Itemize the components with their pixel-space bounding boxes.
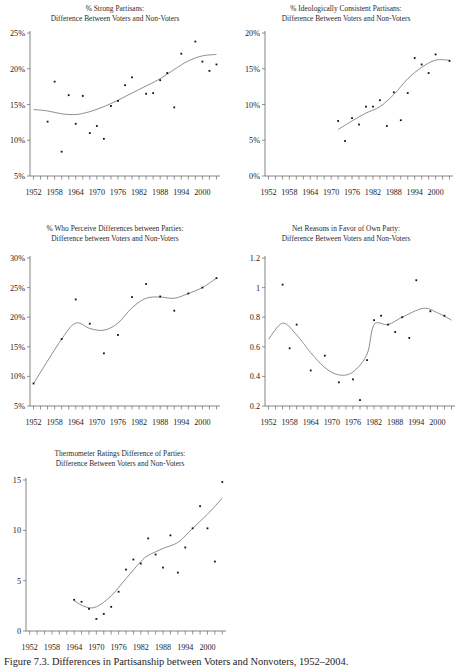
data-point (159, 79, 161, 81)
data-point (81, 601, 83, 603)
x-axis-tick-label: 1994 (408, 418, 424, 427)
panel-title: Net Reasons in Favor of Own Party: Diffe… (231, 224, 461, 243)
data-point (194, 41, 196, 43)
x-axis-tick-label: 1988 (155, 643, 171, 652)
panel-title-line2: Difference between Voters and Non-Voters (0, 234, 230, 244)
figure-container: % Strong Partisans: Difference Between V… (0, 0, 461, 667)
chart-svg: 5%10%15%20%25%19521958196419701976198219… (0, 23, 230, 208)
data-point (118, 591, 120, 593)
x-axis-tick-label: 1952 (25, 418, 41, 427)
y-axis-tick-label: 10% (10, 373, 25, 382)
chart-svg: 0%5%10%15%20%195219581964197019761982198… (231, 23, 461, 208)
x-axis-tick-label: 1958 (47, 418, 63, 427)
y-axis-tick-label: 15% (10, 343, 25, 352)
data-point (131, 77, 133, 79)
data-point (170, 535, 172, 537)
x-axis-tick-label: 1994 (177, 643, 193, 652)
x-axis-tick-label: 2000 (429, 418, 445, 427)
y-axis-tick-label: 0.4 (250, 373, 260, 382)
data-point (214, 561, 216, 563)
data-point (96, 125, 98, 127)
data-point (103, 138, 105, 140)
trend-line (74, 498, 222, 608)
data-point (393, 92, 395, 94)
y-axis-tick-label: 0.6 (250, 343, 260, 352)
data-point (173, 107, 175, 109)
x-axis-tick-label: 1994 (407, 188, 423, 197)
data-point (387, 324, 389, 326)
figure-caption: Figure 7.3. Differences in Partisanship … (0, 656, 461, 667)
x-axis-tick-label: 1952 (22, 643, 38, 652)
panel-title-line1: Net Reasons in Favor of Own Party: (231, 224, 461, 234)
data-point (140, 563, 142, 565)
data-point (88, 608, 90, 610)
x-axis-tick-label: 1988 (152, 418, 168, 427)
data-point (359, 399, 361, 401)
x-axis-tick-label: 1970 (89, 418, 105, 427)
x-axis-tick-label: 1976 (344, 188, 360, 197)
data-point (216, 64, 218, 66)
panel-strong-partisans: % Strong Partisans: Difference Between V… (0, 4, 230, 208)
data-point (394, 331, 396, 333)
x-axis-tick-label: 2000 (427, 188, 443, 197)
x-axis-tick-label: 1988 (152, 188, 168, 197)
chart-svg: 5%10%15%20%25%30%19521958196419701976198… (0, 243, 230, 433)
panel-title: % Ideologically Consistent Partisans: Di… (231, 4, 461, 23)
data-point (444, 315, 446, 317)
data-point (192, 528, 194, 530)
data-point (125, 569, 127, 571)
panel-title-line2: Difference Between Voters and Non-Voters (231, 234, 461, 244)
data-point (187, 293, 189, 295)
x-axis-tick-label: 1970 (323, 188, 339, 197)
data-point (61, 151, 63, 153)
x-axis-tick-label: 1958 (282, 418, 298, 427)
data-point (282, 284, 284, 286)
x-axis-tick-label: 1952 (260, 188, 276, 197)
x-axis-tick-label: 1994 (173, 188, 189, 197)
data-point (289, 348, 291, 350)
x-axis-tick-label: 2000 (194, 188, 210, 197)
y-axis-tick-label: 0.2 (250, 402, 260, 411)
y-axis-tick-label: 15% (10, 101, 25, 110)
y-axis-tick-label: 5% (14, 402, 25, 411)
plot-area: 0%5%10%15%20%195219581964197019761982198… (231, 23, 461, 208)
x-axis-tick-label: 1964 (68, 188, 84, 197)
x-axis-tick-label: 1958 (44, 643, 60, 652)
y-axis-tick-label: 0 (17, 627, 21, 636)
panel-perceive-differences: % Who Perceive Differences between Parti… (0, 224, 230, 433)
data-point (61, 338, 63, 340)
chart-svg: 0510151952195819641970197619821988199420… (0, 468, 240, 658)
data-point (202, 287, 204, 289)
data-point (82, 95, 84, 97)
plot-area: 0510151952195819641970197619821988199420… (0, 468, 240, 658)
x-axis-tick-label: 1982 (366, 418, 382, 427)
data-point (75, 299, 77, 301)
panel-title-line1: % Strong Partisans: (0, 4, 230, 14)
data-point (68, 94, 70, 96)
panel-title-line2: Difference Between Voters and Non-Voters (0, 14, 230, 24)
data-point (95, 618, 97, 620)
data-point (75, 123, 77, 125)
data-point (103, 353, 105, 355)
data-point (324, 355, 326, 357)
data-point (145, 283, 147, 285)
y-axis-tick-label: 30% (10, 254, 25, 263)
data-point (124, 84, 126, 86)
x-axis-tick-label: 1964 (303, 418, 319, 427)
panel-title-line2: Difference Between Voters and Non-Voters (0, 459, 240, 469)
data-point (407, 92, 409, 94)
data-point (110, 606, 112, 608)
data-point (73, 599, 75, 601)
y-axis-tick-label: 1.2 (250, 254, 260, 263)
data-point (449, 60, 451, 62)
y-axis-tick-label: 20% (245, 29, 260, 38)
y-axis-tick-label: 20% (10, 65, 25, 74)
x-axis-tick-label: 1964 (66, 643, 82, 652)
data-point (296, 324, 298, 326)
data-point (408, 337, 410, 339)
data-point (221, 481, 223, 483)
y-axis-tick-label: 0% (249, 172, 260, 181)
x-axis-tick-label: 1976 (110, 418, 126, 427)
x-axis-tick-label: 1970 (89, 188, 105, 197)
x-axis-tick-label: 1994 (173, 418, 189, 427)
